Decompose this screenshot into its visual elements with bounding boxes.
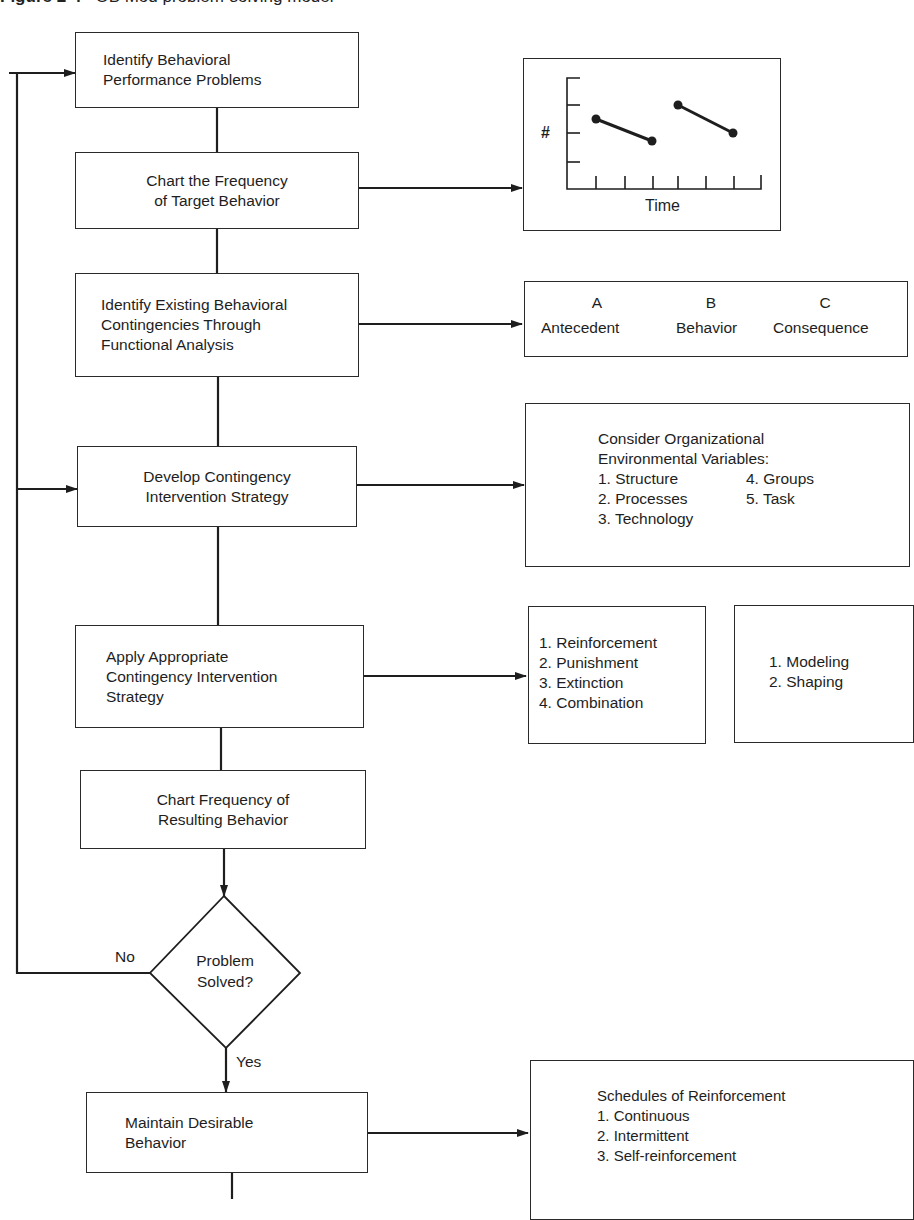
step-label: Chart the Frequency of Target Behavior (146, 171, 287, 211)
step-apply-strategy: Apply Appropriate Contingency Interventi… (75, 625, 364, 728)
step-maintain-behavior: Maintain Desirable Behavior (86, 1092, 368, 1173)
abc-letter-b: B (701, 294, 721, 312)
step-label: Identify Behavioral Performance Problems (103, 50, 262, 90)
chart-x-label: Time (645, 197, 680, 215)
schedules-list: 1. Continuous 2. Intermittent 3. Self-re… (597, 1106, 736, 1166)
environment-heading: Consider Organizational Environmental Va… (598, 429, 769, 469)
decision-no-label: No (115, 948, 135, 966)
environment-variables-panel (525, 403, 910, 567)
techniques-list: 1. Modeling 2. Shaping (769, 652, 849, 692)
environment-list-col2: 4. Groups 5. Task (746, 469, 814, 509)
step-label: Maintain Desirable Behavior (125, 1113, 253, 1153)
step-label: Apply Appropriate Contingency Interventi… (106, 647, 277, 707)
step-chart-resulting-behavior: Chart Frequency of Resulting Behavior (80, 770, 366, 849)
schedules-heading: Schedules of Reinforcement (597, 1086, 785, 1106)
step-label: Develop Contingency Intervention Strateg… (143, 467, 290, 507)
abc-word-consequence: Consequence (773, 319, 903, 337)
abc-word-behavior: Behavior (676, 319, 756, 337)
step-chart-target-behavior: Chart the Frequency of Target Behavior (75, 152, 359, 229)
intervention-types-list: 1. Reinforcement 2. Punishment 3. Extinc… (539, 633, 657, 713)
step-functional-analysis: Identify Existing Behavioral Contingenci… (75, 273, 359, 377)
abc-letter-c: C (815, 294, 835, 312)
step-develop-strategy: Develop Contingency Intervention Strateg… (77, 446, 357, 527)
step-label: Chart Frequency of Resulting Behavior (157, 790, 290, 830)
chart-y-label: # (541, 124, 550, 142)
step-identify-problems: Identify Behavioral Performance Problems (75, 32, 359, 108)
environment-list-col1: 1. Structure 2. Processes 3. Technology (598, 469, 693, 529)
decision-label: Problem Solved? (170, 950, 280, 992)
abc-letter-a: A (587, 294, 607, 312)
abc-word-antecedent: Antecedent (541, 319, 641, 337)
decision-yes-label: Yes (236, 1053, 261, 1071)
step-label: Identify Existing Behavioral Contingenci… (101, 295, 287, 355)
